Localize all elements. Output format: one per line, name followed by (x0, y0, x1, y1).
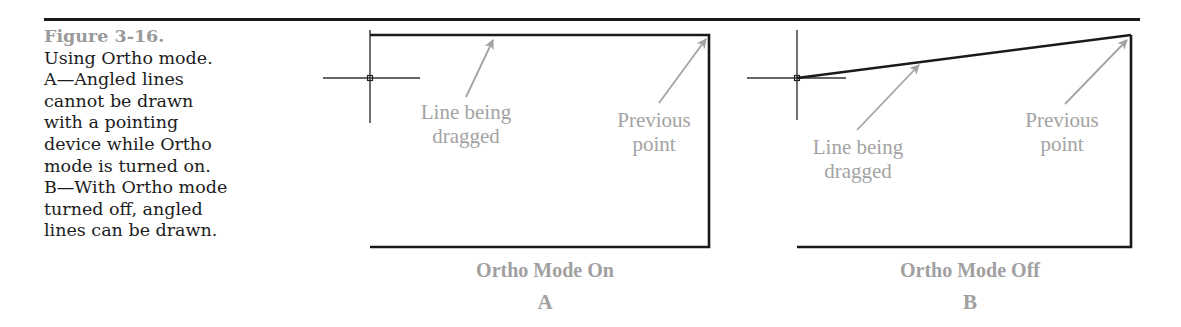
panel-b-letter: B (950, 290, 990, 315)
angled-line (797, 35, 1131, 78)
arrow-line-dragged (466, 40, 493, 97)
panel-a-title: Ortho Mode On (445, 259, 645, 282)
callout-line-being-dragged: Line being dragged (796, 135, 920, 183)
arrow-line-dragged (857, 65, 919, 130)
callout-text: dragged (404, 124, 528, 148)
callout-text: Line being (404, 100, 528, 124)
arrow-previous-point (1065, 40, 1127, 104)
callout-text: Previous (604, 108, 704, 132)
callout-previous-point: Previous point (1012, 108, 1112, 156)
panel-b-title: Ortho Mode Off (870, 259, 1070, 282)
callout-text: Previous (1012, 108, 1112, 132)
panel-a-letter: A (525, 290, 565, 315)
callout-text: Line being (796, 135, 920, 159)
callout-previous-point: Previous point (604, 108, 704, 156)
callout-text: point (1012, 132, 1112, 156)
callout-text: point (604, 132, 704, 156)
callout-text: dragged (796, 159, 920, 183)
arrow-previous-point (659, 39, 706, 103)
callout-line-being-dragged: Line being dragged (404, 100, 528, 148)
